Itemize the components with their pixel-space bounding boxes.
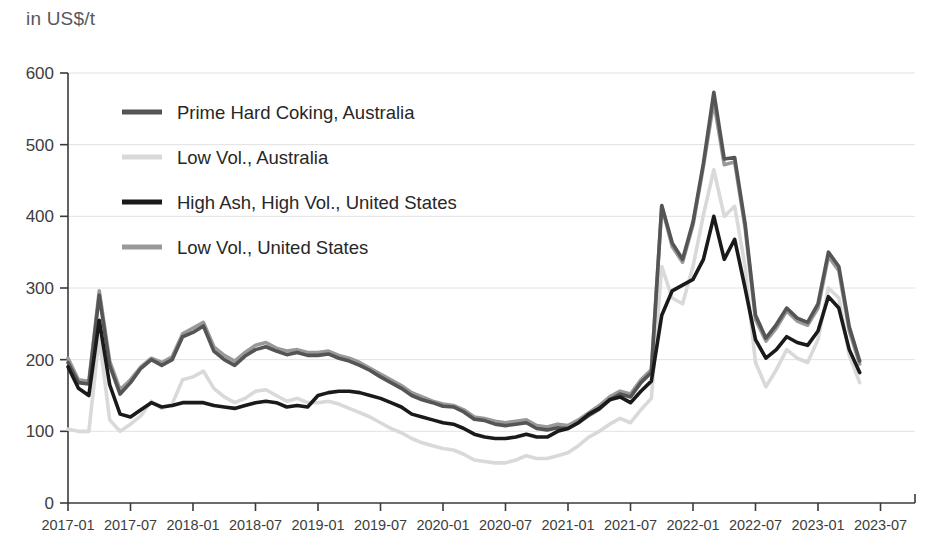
y-tick-label: 400	[26, 207, 54, 226]
y-tick-label: 500	[26, 136, 54, 155]
x-tick-label: 2021-01	[541, 517, 594, 533]
line-chart-plot: 0100200300400500600 2017-012017-072018-0…	[0, 0, 938, 545]
x-tick-label: 2022-01	[666, 517, 719, 533]
series-line	[68, 170, 860, 463]
x-tick-label: 2017-07	[104, 517, 157, 533]
x-axis-ticks: 2017-012017-072018-012018-072019-012019-…	[41, 503, 907, 533]
y-tick-label: 0	[45, 494, 54, 513]
x-tick-label: 2020-07	[479, 517, 532, 533]
x-tick-label: 2023-07	[854, 517, 907, 533]
chart-container: in US$/t 0100200300400500600 2017-012017…	[0, 0, 938, 545]
x-tick-label: 2017-01	[41, 517, 94, 533]
x-tick-label: 2019-07	[354, 517, 407, 533]
y-tick-label: 200	[26, 351, 54, 370]
legend-label: Low Vol., United States	[177, 237, 368, 258]
x-tick-label: 2020-01	[416, 517, 469, 533]
y-tick-label: 600	[26, 64, 54, 83]
x-tick-label: 2019-01	[291, 517, 344, 533]
legend-label: Prime Hard Coking, Australia	[177, 102, 415, 123]
y-axis-ticks: 0100200300400500600	[26, 64, 68, 513]
x-tick-label: 2018-07	[229, 517, 282, 533]
y-tick-label: 100	[26, 422, 54, 441]
x-tick-label: 2021-07	[604, 517, 657, 533]
x-tick-label: 2023-01	[791, 517, 844, 533]
legend-label: Low Vol., Australia	[177, 147, 329, 168]
x-tick-label: 2018-01	[166, 517, 219, 533]
y-tick-label: 300	[26, 279, 54, 298]
legend-label: High Ash, High Vol., United States	[177, 192, 457, 213]
chart-legend: Prime Hard Coking, AustraliaLow Vol., Au…	[122, 102, 457, 258]
x-tick-label: 2022-07	[729, 517, 782, 533]
